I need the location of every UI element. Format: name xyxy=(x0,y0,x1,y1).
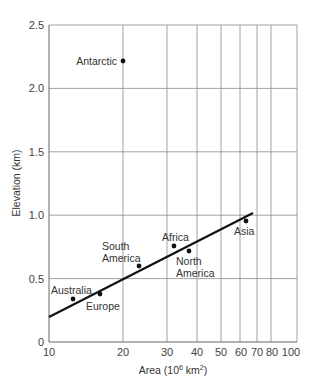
point-australia xyxy=(71,297,76,302)
label-north-america-2: America xyxy=(176,267,215,279)
label-asia: Asia xyxy=(234,225,255,237)
label-europe: Europe xyxy=(86,300,120,312)
label-north-america-1: North xyxy=(176,255,202,267)
point-europe xyxy=(98,292,103,297)
y-axis-title: Elevation (km) xyxy=(10,149,22,216)
svg-text:2.0: 2.0 xyxy=(29,82,44,94)
x-tick-labels: 10 20 30 40 50 60 70 80 100 xyxy=(43,346,300,358)
svg-text:50: 50 xyxy=(215,346,227,358)
regression-line xyxy=(49,213,253,317)
svg-text:100: 100 xyxy=(282,346,300,358)
svg-text:1.0: 1.0 xyxy=(29,209,44,221)
svg-text:2.5: 2.5 xyxy=(29,19,44,31)
svg-text:70: 70 xyxy=(251,346,263,358)
label-south-america-2: America xyxy=(102,252,141,264)
vertical-gridlines xyxy=(123,25,297,342)
point-north-america xyxy=(187,249,192,254)
data-points xyxy=(71,59,249,302)
label-antarctic: Antarctic xyxy=(76,55,117,67)
label-australia: Australia xyxy=(51,284,92,296)
svg-text:60: 60 xyxy=(235,346,247,358)
svg-text:10: 10 xyxy=(43,346,55,358)
svg-text:40: 40 xyxy=(191,346,203,358)
svg-text:0.5: 0.5 xyxy=(29,273,44,285)
svg-text:30: 30 xyxy=(161,346,173,358)
svg-text:20: 20 xyxy=(117,346,129,358)
point-asia xyxy=(244,219,249,224)
svg-text:80: 80 xyxy=(266,346,278,358)
point-antarctic xyxy=(121,59,126,64)
point-south-america xyxy=(137,264,142,269)
x-axis-title: Area (106 km2) xyxy=(139,364,208,376)
point-labels: Antarctic Australia Europe South America… xyxy=(51,55,255,312)
elevation-vs-area-chart: 0 0.5 1.0 1.5 2.0 2.5 10 20 30 40 50 60 … xyxy=(0,0,313,387)
label-south-america-1: South xyxy=(102,240,130,252)
svg-text:1.5: 1.5 xyxy=(29,146,44,158)
label-africa: Africa xyxy=(162,231,189,243)
point-africa xyxy=(172,244,177,249)
y-tick-labels: 0 0.5 1.0 1.5 2.0 2.5 xyxy=(29,19,44,348)
